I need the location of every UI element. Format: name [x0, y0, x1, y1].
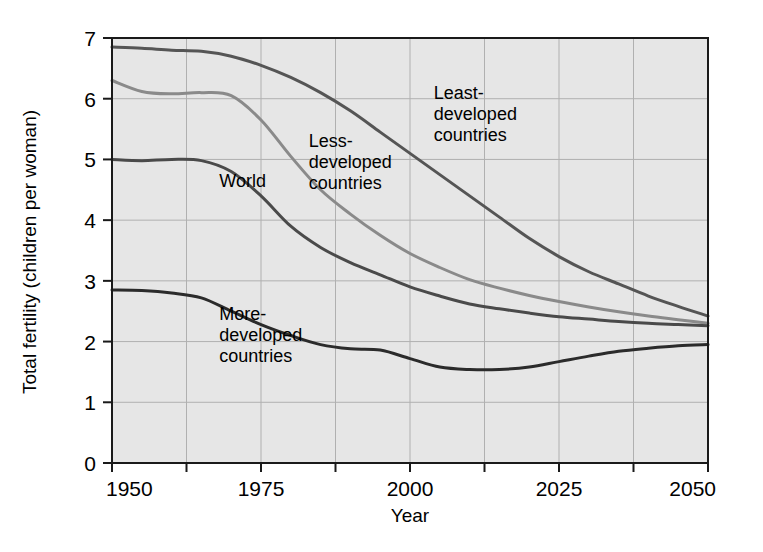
x-tick-label: 2050	[669, 477, 716, 500]
y-tick-label: 1	[84, 391, 96, 414]
y-tick-label: 2	[84, 331, 96, 354]
series-label-line: developed	[434, 104, 517, 124]
series-label-line: developed	[219, 325, 302, 345]
y-tick-label: 5	[84, 148, 96, 171]
series-label-line: World	[219, 171, 266, 191]
series-label-line: More-	[219, 304, 266, 324]
x-tick-label: 2000	[387, 477, 434, 500]
y-tick-label: 0	[84, 452, 96, 475]
series-label-2: World	[219, 171, 266, 191]
series-label-line: countries	[434, 125, 507, 145]
x-axis-title: Year	[391, 505, 430, 526]
series-label-line: Least-	[434, 83, 484, 103]
fertility-line-chart: 19501975200020252050 01234567 Least-deve…	[0, 0, 763, 552]
x-tick-label: 1950	[106, 477, 153, 500]
y-tick-label: 7	[84, 27, 96, 50]
series-label-line: Less-	[309, 131, 353, 151]
y-tick-label: 6	[84, 88, 96, 111]
y-tick-label: 4	[84, 209, 96, 232]
y-axis-title: Total fertility (children per woman)	[19, 110, 40, 394]
y-tick-label: 3	[84, 270, 96, 293]
series-label-line: countries	[309, 173, 382, 193]
x-tick-label: 2025	[536, 477, 583, 500]
x-tick-label: 1975	[238, 477, 285, 500]
series-label-line: developed	[309, 152, 392, 172]
series-label-line: countries	[219, 346, 292, 366]
chart-canvas: 19501975200020252050 01234567 Least-deve…	[0, 0, 763, 552]
